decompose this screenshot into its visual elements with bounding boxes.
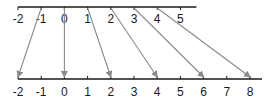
bottom-tick-label: -2 (13, 85, 24, 99)
bottom-tick-label: 8 (247, 85, 254, 99)
top-tick-label: 2 (107, 12, 114, 26)
bottom-tick-label: 3 (131, 85, 138, 99)
bottom-number-line: -2-1012345678 (13, 76, 262, 99)
mapping-arrow (157, 8, 250, 77)
top-tick-label: 4 (154, 12, 161, 26)
top-tick-label: 3 (131, 12, 138, 26)
bottom-tick-label: 7 (223, 85, 230, 99)
mapping-arrow (134, 8, 204, 77)
bottom-tick-label: 2 (107, 85, 114, 99)
top-tick-label: -2 (13, 12, 24, 26)
bottom-tick-label: 4 (154, 85, 161, 99)
bottom-tick-label: 5 (177, 85, 184, 99)
bottom-tick-label: 6 (200, 85, 207, 99)
bottom-tick-label: 1 (84, 85, 91, 99)
bottom-tick-label: 0 (61, 85, 68, 99)
number-line-mapping-diagram: -2-1012345 -2-1012345678 (0, 0, 274, 108)
diagram-canvas: -2-1012345 -2-1012345678 (0, 0, 274, 108)
bottom-tick-label: -1 (36, 85, 47, 99)
